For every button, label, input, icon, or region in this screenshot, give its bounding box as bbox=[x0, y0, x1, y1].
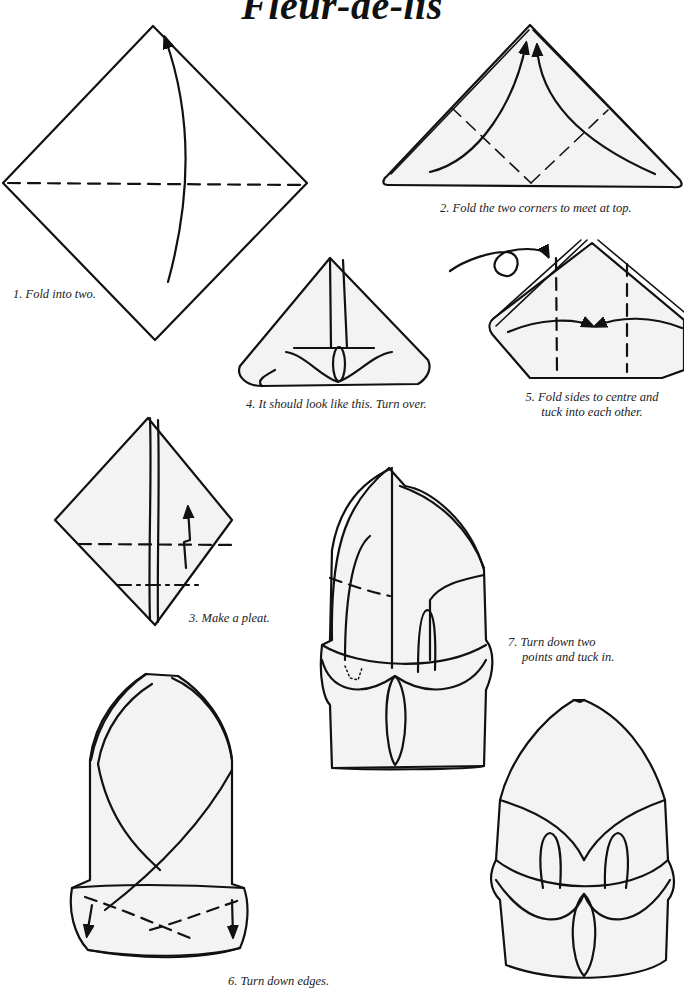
step-5-caption-line-2: tuck into each other. bbox=[500, 405, 684, 420]
step-2-caption: 2. Fold the two corners to meet at top. bbox=[440, 201, 632, 216]
step-4-diagram bbox=[239, 258, 429, 386]
final-fleur-de-lis-diagram bbox=[491, 700, 674, 978]
step-6-caption: 6. Turn down edges. bbox=[228, 974, 329, 989]
step-3-caption: 3. Make a pleat. bbox=[189, 611, 270, 626]
step-5-diagram bbox=[450, 240, 684, 378]
step-7-caption: 7. Turn down two points and tuck in. bbox=[508, 635, 614, 665]
step-1-caption: 1. Fold into two. bbox=[13, 287, 96, 302]
fold-line bbox=[8, 183, 304, 185]
step-2-diagram bbox=[383, 25, 681, 187]
step-5-caption: 5. Fold sides to centre and tuck into ea… bbox=[500, 390, 684, 420]
folding-diagrams bbox=[0, 0, 684, 996]
step-7-caption-line-1: 7. Turn down two bbox=[508, 635, 614, 650]
step-5-caption-line-1: 5. Fold sides to centre and bbox=[500, 390, 684, 405]
step-7-intermediate-diagram bbox=[321, 468, 493, 769]
turn-over-icon bbox=[450, 249, 548, 276]
fold-arrow-icon bbox=[165, 38, 185, 282]
step-4-caption: 4. It should look like this. Turn over. bbox=[246, 397, 427, 412]
turn-down-arrow-right-icon bbox=[232, 900, 233, 936]
step-6-diagram bbox=[71, 674, 248, 957]
step-7-caption-line-2: points and tuck in. bbox=[508, 650, 614, 665]
step-3-diagram bbox=[55, 418, 236, 625]
